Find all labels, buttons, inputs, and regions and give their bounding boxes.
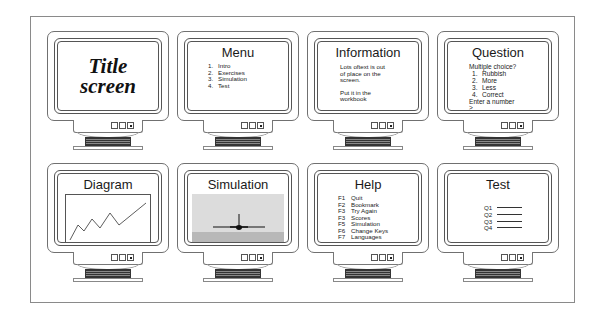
monitor-test: Test Q1 Q2 Q3 Q4 (437, 163, 559, 287)
monitor-button-icon (509, 254, 516, 261)
test-question-row: Q4 (484, 225, 548, 232)
monitor-case: Title screen (47, 31, 169, 121)
monitor-screen: Menu 1.Intro 2.Exercises 3.Simulation 4.… (187, 41, 289, 111)
title-line-2: screen (80, 76, 136, 96)
monitor-screen: Simulation (187, 173, 289, 243)
monitor-button-icon (111, 122, 118, 129)
monitor-information: Information Lots oftext is out of place … (307, 31, 429, 155)
monitor-screen: Help F1Quit F2Bookmark F3Try Again F3Sco… (317, 173, 419, 243)
answer-blank (497, 214, 522, 215)
monitor-button-icon (119, 254, 126, 261)
monitor-case: Information Lots oftext is out of place … (307, 31, 429, 121)
monitor-base-plate (73, 278, 143, 282)
monitor-button-icon (509, 122, 516, 129)
test-question-row: Q1 (484, 205, 548, 212)
power-button-icon (517, 122, 524, 129)
monitor-stand (345, 137, 391, 146)
screen-heading: Menu (188, 46, 288, 60)
monitor-base-plate (333, 278, 403, 282)
monitor-button-icon (501, 122, 508, 129)
monitor-base-plate (203, 278, 273, 282)
screen-heading: Question (448, 46, 548, 60)
monitor-stand (345, 269, 391, 278)
help-key-list: F1Quit F2Bookmark F3Try Again F3Scores F… (338, 195, 418, 241)
monitor-button-icon (379, 122, 386, 129)
test-answer-list: Q1 Q2 Q3 Q4 (484, 205, 548, 232)
monitor-case: Test Q1 Q2 Q3 Q4 (437, 163, 559, 253)
power-button-icon (517, 254, 524, 261)
monitor-button-icon (371, 122, 378, 129)
monitor-button-icon (241, 254, 248, 261)
monitor-case: Help F1Quit F2Bookmark F3Try Again F3Sco… (307, 163, 429, 253)
monitor-screen: Information Lots oftext is out of place … (317, 41, 419, 111)
monitor-case: Question Multiple choice? 1.Rubbish 2.Mo… (437, 31, 559, 121)
monitor-stand (85, 137, 131, 146)
monitor-screen: Title screen (57, 41, 159, 111)
screen-heading: Simulation (188, 178, 288, 192)
monitor-base-plate (463, 146, 533, 150)
monitor-screen: Diagram (57, 173, 159, 243)
screen-heading: Test (448, 178, 548, 192)
title-line-1: Title (89, 56, 128, 76)
monitor-screen: Question Multiple choice? 1.Rubbish 2.Mo… (447, 41, 549, 111)
menu-list: 1.Intro 2.Exercises 3.Simulation 4.Test (208, 63, 288, 89)
screen-heading: Diagram (58, 178, 158, 192)
line-chart-icon (66, 195, 150, 243)
monitor-case: Simulation (177, 163, 299, 253)
monitor-simulation: Simulation (177, 163, 299, 287)
information-text: Lots oftext is out of place on the scree… (340, 64, 418, 103)
monitor-diagram: Diagram (47, 163, 169, 287)
monitor-button-icon (501, 254, 508, 261)
monitor-button-icon (119, 122, 126, 129)
answer-blank (497, 207, 522, 208)
monitor-stand (85, 269, 131, 278)
power-button-icon (127, 122, 134, 129)
test-question-row: Q3 (484, 219, 548, 226)
monitor-screen: Test Q1 Q2 Q3 Q4 (447, 173, 549, 243)
monitor-case: Menu 1.Intro 2.Exercises 3.Simulation 4.… (177, 31, 299, 121)
monitor-button-icon (241, 122, 248, 129)
monitor-stand (215, 269, 261, 278)
answer-blank (497, 227, 522, 228)
monitor-question: Question Multiple choice? 1.Rubbish 2.Mo… (437, 31, 559, 155)
monitor-button-icon (371, 254, 378, 261)
power-button-icon (257, 254, 264, 261)
answer-blank (497, 221, 522, 222)
monitor-button-icon (249, 122, 256, 129)
power-button-icon (127, 254, 134, 261)
input-cursor: >_ (469, 105, 548, 111)
power-button-icon (387, 254, 394, 261)
monitor-case: Diagram (47, 163, 169, 253)
test-question-row: Q2 (484, 212, 548, 219)
help-key-row: F7Languages (338, 234, 418, 241)
monitor-title-screen: Title screen (47, 31, 169, 155)
monitor-base-plate (333, 146, 403, 150)
monitor-base-plate (463, 278, 533, 282)
screen-heading: Information (318, 46, 418, 60)
airplane-icon (192, 194, 286, 242)
monitor-menu: Menu 1.Intro 2.Exercises 3.Simulation 4.… (177, 31, 299, 155)
monitor-button-icon (111, 254, 118, 261)
monitor-stand (215, 137, 261, 146)
power-button-icon (387, 122, 394, 129)
monitor-stand (475, 137, 521, 146)
power-button-icon (257, 122, 264, 129)
monitor-base-plate (203, 146, 273, 150)
screen-heading: Help (318, 178, 418, 192)
monitor-help: Help F1Quit F2Bookmark F3Try Again F3Sco… (307, 163, 429, 287)
monitor-base-plate (73, 146, 143, 150)
monitor-stand (475, 269, 521, 278)
monitor-button-icon (379, 254, 386, 261)
menu-item: 4.Test (208, 83, 288, 90)
title-screen-text: Title screen (58, 42, 158, 110)
monitor-button-icon (249, 254, 256, 261)
question-text: Multiple choice? 1.Rubbish 2.More 3.Less… (469, 64, 548, 111)
line-chart (65, 194, 151, 243)
